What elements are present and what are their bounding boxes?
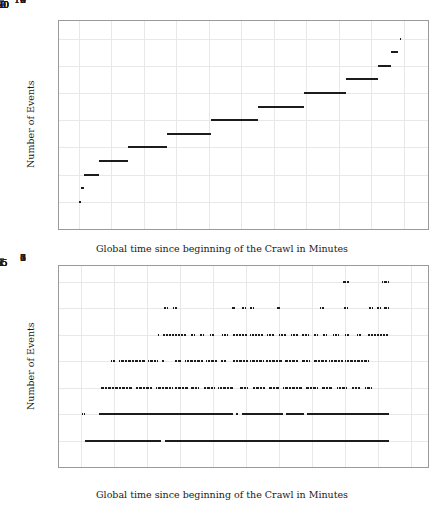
gridline-vertical: [378, 266, 379, 467]
data-point: [317, 334, 318, 336]
data-point: [281, 360, 282, 362]
data-point: [273, 334, 274, 336]
gridline-horizontal: [59, 175, 428, 176]
data-band-run: [99, 413, 233, 415]
data-point: [372, 307, 373, 309]
data-segment: [378, 65, 392, 67]
top-chart-plot-area: [58, 20, 429, 230]
data-point: [234, 307, 235, 309]
data-point: [317, 387, 318, 389]
data-point: [388, 281, 389, 283]
gridline-vertical: [241, 21, 242, 229]
data-band-run: [85, 440, 162, 442]
data-band-run: [307, 413, 389, 415]
gridline-vertical: [279, 266, 280, 467]
gridline-vertical: [180, 266, 181, 467]
data-point: [225, 360, 226, 362]
gridline-vertical: [79, 21, 80, 229]
data-band-run: [165, 440, 389, 442]
data-segment: [258, 106, 304, 108]
gridline-vertical: [114, 266, 115, 467]
data-segment: [99, 160, 128, 162]
gridline-vertical: [306, 21, 307, 229]
data-point: [247, 360, 248, 362]
data-band-run: [286, 413, 305, 415]
gridline-vertical: [274, 21, 275, 229]
data-point: [247, 387, 248, 389]
data-point: [245, 307, 246, 309]
gridline-vertical: [176, 21, 177, 229]
data-point: [297, 334, 298, 336]
data-point: [144, 360, 145, 362]
data-segment: [211, 119, 258, 121]
data-point: [278, 387, 279, 389]
gridline-vertical: [339, 21, 340, 229]
data-point: [360, 334, 361, 336]
top-chart-figure: Number of Events Global time since begin…: [0, 0, 444, 260]
data-point: [237, 413, 238, 415]
data-point: [131, 387, 132, 389]
data-segment: [304, 92, 346, 94]
data-point: [172, 387, 173, 389]
data-point: [347, 307, 348, 309]
data-point: [202, 360, 203, 362]
gridline-vertical: [209, 21, 210, 229]
data-point: [331, 387, 332, 389]
gridline-horizontal: [59, 229, 428, 230]
gridline-horizontal: [59, 66, 428, 67]
data-point: [263, 360, 264, 362]
data-point: [309, 360, 310, 362]
data-segment: [167, 133, 211, 135]
data-point: [264, 387, 265, 389]
data-point: [253, 307, 254, 309]
data-point: [301, 387, 302, 389]
gridline-vertical: [111, 21, 112, 229]
x-axis-tick-label: 200: [0, 0, 9, 10]
data-point: [194, 334, 195, 336]
data-point: [203, 334, 204, 336]
gridline-vertical: [404, 21, 405, 229]
gridline-vertical: [144, 21, 145, 229]
data-point: [297, 360, 298, 362]
gridline-horizontal: [59, 202, 428, 203]
data-segment: [400, 38, 402, 40]
data-point: [213, 334, 214, 336]
gridline-horizontal: [59, 39, 428, 40]
data-point: [326, 334, 327, 336]
data-point: [151, 387, 152, 389]
data-point: [176, 307, 177, 309]
data-segment: [128, 146, 167, 148]
data-point: [246, 334, 247, 336]
data-segment: [346, 78, 378, 80]
data-point: [359, 387, 360, 389]
gridline-vertical: [411, 266, 412, 467]
data-point: [84, 413, 85, 415]
data-point: [157, 360, 158, 362]
data-point: [285, 334, 286, 336]
data-point: [342, 360, 343, 362]
gridline-vertical: [312, 266, 313, 467]
data-point: [387, 334, 388, 336]
bottom-chart-figure: Number of Events Global time since begin…: [0, 258, 444, 517]
data-segment: [391, 51, 398, 53]
gridline-vertical: [345, 266, 346, 467]
gridline-vertical: [371, 21, 372, 229]
data-point: [346, 387, 347, 389]
data-point: [323, 307, 324, 309]
x-axis-tick-label: 5: [0, 258, 3, 268]
data-point: [279, 307, 280, 309]
top-chart-y-axis-title: Number of Events: [25, 80, 36, 168]
data-point: [216, 360, 217, 362]
gridline-vertical: [81, 266, 82, 467]
data-segment: [81, 187, 84, 189]
data-segment: [84, 174, 99, 176]
gridline-vertical: [213, 266, 214, 467]
gridline-vertical: [147, 266, 148, 467]
data-point: [187, 387, 188, 389]
data-point: [388, 307, 389, 309]
data-point: [368, 360, 369, 362]
data-point: [326, 360, 327, 362]
data-point: [308, 334, 309, 336]
gridline-vertical: [246, 266, 247, 467]
data-point: [180, 360, 181, 362]
